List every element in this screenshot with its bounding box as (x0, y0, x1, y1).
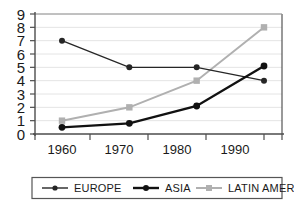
legend-label-europe: EUROPE (74, 182, 122, 194)
x-tick-labels: 1960 1970 1980 1990 (48, 142, 250, 157)
data-point-square-icon (261, 24, 267, 30)
legend-marker-circle-icon (143, 185, 149, 191)
line-chart: 9 8 7 6 5 4 3 2 1 0 1960 1970 1980 1990 (0, 0, 294, 209)
data-point-square-icon (59, 117, 65, 123)
data-point-square-icon (126, 104, 132, 110)
x-tick-label: 1960 (48, 142, 77, 157)
legend-marker-circle-icon (52, 185, 57, 190)
y-tick-labels: 9 8 7 6 5 4 3 2 1 0 (17, 6, 25, 143)
series-latin-america (59, 24, 267, 124)
y-axis (30, 12, 35, 136)
series-europe (59, 38, 267, 84)
x-tick-label: 1990 (221, 142, 250, 157)
x-tick-label: 1980 (163, 142, 192, 157)
data-point-circle-icon (194, 64, 200, 70)
x-tick-label: 1970 (105, 142, 134, 157)
data-point-circle-icon (261, 78, 267, 84)
legend-label-latin-america: LATIN AMERICA (228, 182, 294, 194)
data-point-circle-icon (59, 38, 65, 44)
data-point-circle-icon (59, 124, 66, 131)
data-point-circle-icon (126, 120, 133, 127)
data-point-circle-icon (193, 103, 200, 110)
y-tick-label: 0 (17, 126, 25, 143)
legend-label-asia: ASIA (165, 182, 191, 194)
chart-container: 9 8 7 6 5 4 3 2 1 0 1960 1970 1980 1990 (0, 0, 294, 209)
data-point-circle-icon (126, 64, 132, 70)
x-axis (33, 134, 284, 140)
data-point-square-icon (193, 77, 199, 83)
data-point-circle-icon (261, 63, 268, 70)
legend-marker-square-icon (206, 185, 212, 191)
chart-legend: EUROPE ASIA LATIN AMERICA (32, 178, 294, 199)
